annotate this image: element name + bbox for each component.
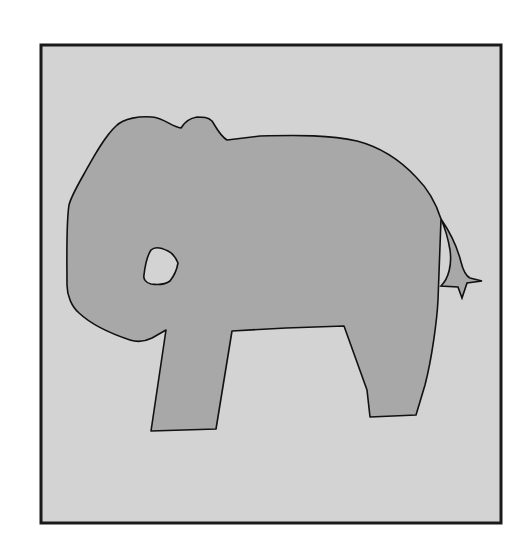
elephant-illustration xyxy=(0,0,528,559)
